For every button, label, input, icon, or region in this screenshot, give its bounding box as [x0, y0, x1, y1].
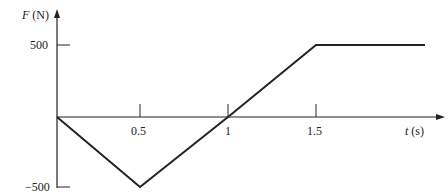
y-axis-arrow-icon: [54, 9, 60, 18]
x-tick-label-0.5: 0.5: [131, 124, 146, 139]
y-tick-label-neg500: −500: [25, 180, 50, 195]
x-axis-label: t (s): [405, 124, 424, 139]
x-tick-label-1: 1: [225, 124, 231, 139]
x-axis-arrow-icon: [436, 114, 445, 120]
force-curve: [57, 45, 425, 187]
x-tick-label-1.5: 1.5: [307, 124, 322, 139]
y-tick-label-500: 500: [30, 38, 48, 53]
chart-plot: [0, 0, 448, 195]
y-axis-label: F (N): [22, 8, 49, 23]
